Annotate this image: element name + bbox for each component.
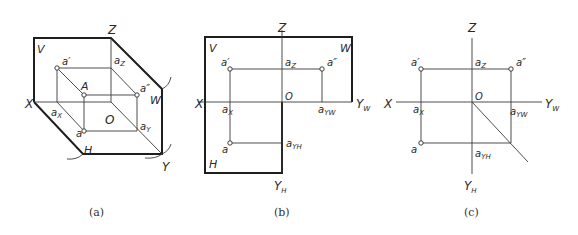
point-a-prime — [55, 66, 59, 70]
label-X: X — [24, 97, 34, 111]
caption-b: (b) — [274, 206, 290, 219]
panel-b-unfolded: Z V W X H O YW YH a′ aZ a″ aX aYW a aYH … — [194, 21, 371, 219]
point-a — [82, 129, 86, 133]
label-Yh: YH — [464, 179, 477, 195]
label-W: W — [150, 94, 162, 107]
proj-line — [57, 68, 84, 95]
label-a: a — [222, 144, 228, 155]
label-ayh: aYH — [475, 148, 491, 161]
label-V: V — [37, 43, 46, 56]
label-ax: aX — [222, 104, 233, 117]
label-a: a — [76, 128, 82, 139]
label-Yh: YH — [274, 179, 287, 195]
point-A — [82, 93, 86, 97]
label-Yw: YW — [356, 97, 371, 113]
label-a-prime: a′ — [411, 57, 420, 68]
label-az: aZ — [475, 57, 486, 70]
label-ax: aX — [51, 107, 62, 120]
panel-c-projection: Z X O YW YH a′ aZ a″ aX aYW a aYH (c) — [383, 21, 560, 219]
rotation-arrow-icon — [67, 154, 83, 159]
label-ayh: aYH — [286, 138, 302, 151]
label-A: A — [80, 80, 89, 93]
label-Yw: YW — [545, 97, 560, 113]
label-O: O — [285, 91, 293, 102]
point-a-dprime — [320, 67, 324, 71]
point-a — [419, 141, 423, 145]
label-O: O — [475, 91, 483, 102]
panel-a-axonometric: Z V W X H Y O a′ aZ A a″ aX a aY (a) — [24, 23, 171, 219]
label-a-dprime: a″ — [516, 57, 526, 68]
caption-c: (c) — [464, 206, 479, 219]
label-a-dprime: a″ — [140, 83, 150, 94]
label-X: X — [383, 97, 393, 111]
label-ayw: aYW — [510, 106, 528, 119]
label-az: aZ — [114, 55, 125, 68]
label-ax: aX — [413, 104, 424, 117]
point-a-dprime — [509, 67, 513, 71]
label-a-prime: a′ — [62, 56, 71, 67]
rotation-arrow-icon — [162, 77, 171, 89]
proj-line — [111, 68, 137, 95]
label-Z: Z — [107, 23, 117, 37]
label-Z: Z — [467, 21, 477, 35]
label-V: V — [209, 42, 218, 55]
caption-a: (a) — [89, 206, 104, 219]
rotation-arrow-icon — [162, 144, 171, 154]
label-Z: Z — [277, 21, 287, 35]
y-axis — [111, 102, 162, 154]
label-W: W — [340, 42, 352, 55]
label-H: H — [209, 158, 217, 171]
point-a-dprime — [135, 93, 139, 97]
label-X: X — [194, 97, 204, 111]
label-a-prime: a′ — [221, 57, 230, 68]
label-az: aZ — [285, 57, 296, 70]
label-ay: aY — [140, 121, 151, 134]
label-a-dprime: a″ — [327, 57, 337, 68]
label-ayw: aYW — [318, 104, 336, 117]
plane-frame — [34, 38, 162, 154]
point-a-prime — [419, 67, 423, 71]
label-H: H — [84, 144, 92, 157]
projection-figure: Z V W X H Y O a′ aZ A a″ aX a aY (a) Z V… — [0, 0, 578, 235]
label-Y: Y — [162, 160, 171, 174]
point-a — [228, 141, 232, 145]
label-a: a — [411, 144, 417, 155]
vh-plane-frame — [205, 37, 282, 173]
label-O: O — [105, 113, 114, 127]
